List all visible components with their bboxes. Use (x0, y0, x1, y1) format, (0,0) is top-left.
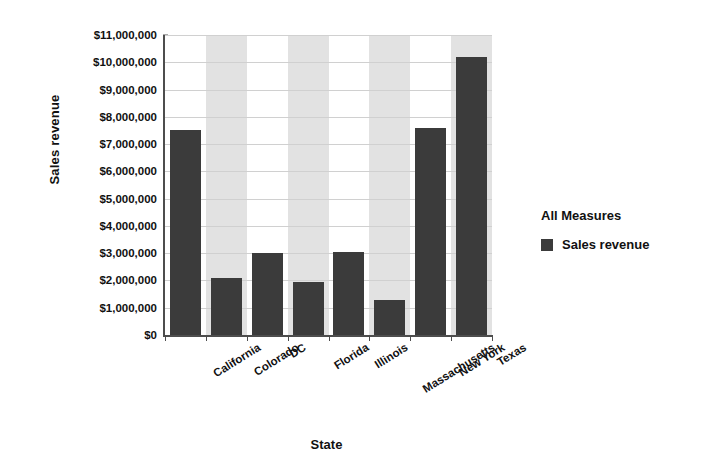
bar-series (165, 35, 492, 335)
bar[interactable] (252, 253, 283, 335)
y-axis-tick-label: $1,000,000 (99, 302, 157, 314)
legend-swatch-icon (541, 239, 553, 251)
bar[interactable] (170, 130, 201, 335)
legend-item-sales-revenue[interactable]: Sales revenue (541, 237, 706, 252)
y-axis-tick-label: $2,000,000 (99, 274, 157, 286)
bar[interactable] (415, 128, 446, 335)
y-axis-tick-label: $3,000,000 (99, 247, 157, 259)
y-axis-tick-label: $7,000,000 (99, 138, 157, 150)
bar[interactable] (374, 300, 405, 335)
y-axis-tick-labels: $0$1,000,000$2,000,000$3,000,000$4,000,0… (58, 35, 163, 335)
y-axis-tick-label: $5,000,000 (99, 193, 157, 205)
y-axis-tick-label: $4,000,000 (99, 220, 157, 232)
bar[interactable] (293, 282, 324, 335)
plot-area (163, 35, 492, 337)
legend-item-label: Sales revenue (562, 237, 649, 252)
y-axis-tick-label: $6,000,000 (99, 165, 157, 177)
y-axis-tick-label: $8,000,000 (99, 111, 157, 123)
y-axis-tick-label: $11,000,000 (94, 29, 157, 41)
bar[interactable] (333, 252, 364, 335)
bar[interactable] (456, 57, 487, 335)
x-axis-category-label: Florida (332, 341, 371, 371)
x-axis-title: State (163, 437, 490, 452)
x-axis-category-labels: CaliforniaColoradoDCFloridaIllinoisMassa… (163, 341, 503, 436)
x-axis-category-label: Illinois (372, 341, 409, 370)
bar[interactable] (211, 278, 242, 335)
bar-chart: Sales revenue $0$1,000,000$2,000,000$3,0… (0, 0, 712, 471)
legend-title: All Measures (541, 208, 706, 223)
legend: All Measures Sales revenue (541, 208, 706, 252)
y-axis-tick-label: $9,000,000 (99, 84, 157, 96)
y-axis-tick-label: $10,000,000 (93, 56, 157, 68)
y-axis-tick-label: $0 (144, 329, 157, 341)
